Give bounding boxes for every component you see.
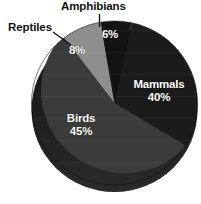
slice-label-mammals-name: Mammals [122,78,196,91]
pie-chart: Amphibians Reptiles 6% 8% Mammals 40% Bi… [0,0,201,204]
slice-value-amphibians-text: 6% [93,28,127,41]
slice-label-birds-name: Birds [50,112,112,125]
slice-value-reptiles-text: 8% [62,44,92,57]
slice-label-birds-pct: 45% [50,125,112,138]
slice-label-mammals-pct: 40% [122,91,196,104]
slice-label-birds: Birds 45% [50,112,112,138]
callout-label-amphibians: Amphibians [61,0,126,12]
slice-value-reptiles: 8% [62,44,92,57]
slice-label-mammals: Mammals 40% [122,78,196,104]
slice-value-amphibians: 6% [93,28,127,41]
callout-label-reptiles: Reptiles [8,21,52,33]
